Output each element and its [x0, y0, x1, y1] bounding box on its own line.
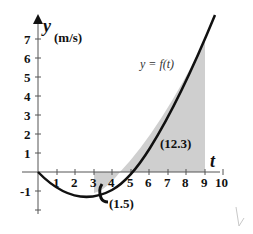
- area-label-large: (12.3): [160, 136, 191, 151]
- pencil-mark-icon: [236, 207, 244, 226]
- shaded-region-small: [94, 172, 120, 193]
- curve-label: y = f(t): [139, 57, 174, 71]
- y-axis-arrow-icon: [33, 14, 43, 24]
- x-tick-label: 8: [182, 175, 189, 190]
- x-axis-title: t: [210, 151, 216, 171]
- x-tick-label: 9: [201, 175, 208, 190]
- y-tick-label: 4: [24, 89, 31, 104]
- y-axis-title: y: [41, 16, 52, 36]
- x-tick-label: 6: [145, 175, 152, 190]
- x-tick-label: 7: [164, 175, 171, 190]
- y-tick-label: -1: [20, 184, 31, 199]
- y-tick-label: 1: [24, 146, 31, 161]
- chart-canvas: 7 6 5 4 3 2 1 -1 1 2 3 4 5 6 7 8 9 10 y …: [0, 0, 253, 234]
- y-tick-label: 7: [24, 32, 31, 47]
- x-tick-label: 3: [90, 175, 97, 190]
- y-tick-label: 6: [24, 51, 31, 66]
- y-tick-label: 2: [24, 127, 31, 142]
- y-axis-unit: (m/s): [54, 30, 82, 45]
- area-label-small: (1.5): [109, 196, 134, 211]
- x-tick-label: 2: [71, 175, 78, 190]
- x-tick-label: 10: [215, 175, 228, 190]
- y-tick-label: 3: [24, 108, 31, 123]
- x-tick-label: 4: [108, 175, 115, 190]
- y-tick-label: 5: [24, 70, 31, 85]
- x-tick-label: 5: [127, 175, 134, 190]
- x-tick-label: 1: [53, 175, 60, 190]
